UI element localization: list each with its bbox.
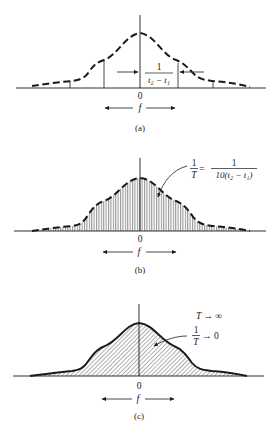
origin-label: 0 (138, 91, 143, 101)
spacing-numerator: 1 (157, 62, 162, 72)
limit-denominator: T (193, 337, 199, 347)
rhs-numerator: 1 (232, 158, 237, 168)
limit-numerator: 1 (194, 325, 199, 335)
origin-label: 0 (137, 381, 142, 391)
limit-arrow-text: → 0 (202, 331, 219, 341)
equals-sign: = (199, 164, 204, 174)
panel-b: 1 T = 1 10(t₂ − t₁) 0 f (b) (14, 158, 266, 275)
origin-label: 0 (138, 234, 143, 244)
frequency-label: f (139, 102, 143, 113)
panel-caption: (b) (135, 265, 146, 275)
lhs-denominator: T (191, 170, 197, 180)
sample-lines (70, 61, 213, 88)
panel-a: 1 t₂ − t₁ 0 f (a) (16, 15, 266, 133)
diagram-canvas: 1 t₂ − t₁ 0 f (a) 1 T = 1 10(t₂ − t₁) 0 (0, 0, 274, 425)
spectrum-area-vertical-lines (32, 178, 250, 231)
lhs-numerator: 1 (192, 158, 197, 168)
panel-caption: (a) (135, 123, 145, 133)
panel-c: T → ∞ 1 T → 0 0 f (c) (13, 304, 264, 421)
panel-caption: (c) (134, 411, 144, 421)
spectrum-envelope-dashed (32, 33, 250, 87)
limit-label: T → ∞ (196, 311, 222, 321)
frequency-label: f (138, 246, 142, 257)
rhs-denominator: 10(t₂ − t₁) (216, 170, 253, 180)
frequency-label: f (137, 393, 141, 404)
spacing-denominator: t₂ − t₁ (148, 75, 170, 85)
